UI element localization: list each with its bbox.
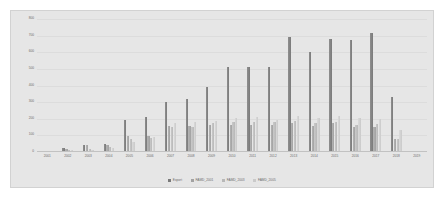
x-axis-tick-label: 2009	[201, 155, 222, 165]
y-axis-tick-label: 400	[29, 84, 34, 87]
x-axis-tick-label: 2008	[181, 155, 202, 165]
bar-groups	[37, 19, 427, 152]
y-axis-tick-label: 200	[29, 117, 34, 120]
x-axis-labels: 2001200220032004200520062007200820092010…	[37, 155, 427, 165]
bar	[317, 118, 319, 152]
y-axis-tick-label: 800	[29, 17, 34, 20]
x-axis-tick-label: 2010	[222, 155, 243, 165]
bar-group	[345, 19, 366, 152]
x-axis-baseline	[37, 151, 427, 152]
bar	[276, 120, 278, 152]
legend-swatch-icon	[168, 179, 171, 182]
x-axis-tick-label: 2015	[324, 155, 345, 165]
bar	[399, 130, 401, 152]
bar-group	[58, 19, 79, 152]
x-axis-tick-label: 2007	[160, 155, 181, 165]
x-axis-tick-label: 2005	[119, 155, 140, 165]
legend-swatch-icon	[191, 179, 194, 182]
bar-group	[78, 19, 99, 152]
bar-group	[366, 19, 387, 152]
x-axis-tick-label: 2013	[283, 155, 304, 165]
plot-area: 0100200300400500600700800	[37, 19, 427, 152]
legend-label: Export	[173, 179, 182, 182]
y-axis-tick-label: 700	[29, 34, 34, 37]
x-axis-tick-label: 2016	[345, 155, 366, 165]
legend-label: FAMD_2001	[196, 179, 214, 182]
y-axis-tick-label: 300	[29, 101, 34, 104]
y-axis-tick-label: 500	[29, 67, 34, 70]
bar-group	[140, 19, 161, 152]
bar	[194, 122, 196, 152]
y-axis-tick-label: 0	[32, 150, 34, 153]
legend-item[interactable]: FAMD_2003	[222, 179, 244, 182]
bar	[338, 116, 340, 152]
legend-label: FAMD_2005	[258, 179, 276, 182]
bar-group	[263, 19, 284, 152]
x-axis-tick-label: 2012	[263, 155, 284, 165]
bar	[235, 118, 237, 152]
legend-item[interactable]: FAMD_2001	[191, 179, 213, 182]
x-axis-tick-label: 2006	[140, 155, 161, 165]
bar-group	[37, 19, 58, 152]
bar-group	[283, 19, 304, 152]
chart-container: 0100200300400500600700800 20012002200320…	[10, 10, 434, 188]
bar-group	[119, 19, 140, 152]
legend-swatch-icon	[222, 179, 225, 182]
bar-group	[407, 19, 428, 152]
chart-legend: ExportFAMD_2001FAMD_2003FAMD_2005	[11, 179, 433, 182]
bar-group	[160, 19, 181, 152]
bar-group	[242, 19, 263, 152]
bar	[256, 117, 258, 152]
y-axis-tick-label: 600	[29, 51, 34, 54]
legend-item[interactable]: FAMD_2005	[253, 179, 275, 182]
bar-group	[304, 19, 325, 152]
bar-group	[181, 19, 202, 152]
bar-group	[201, 19, 222, 152]
x-axis-tick-label: 2018	[386, 155, 407, 165]
legend-swatch-icon	[253, 179, 256, 182]
x-axis-tick-label: 2004	[99, 155, 120, 165]
bar	[358, 118, 360, 152]
bar	[297, 116, 299, 152]
legend-label: FAMD_2003	[227, 179, 245, 182]
x-axis-tick-label: 2002	[58, 155, 79, 165]
x-axis-tick-label: 2011	[242, 155, 263, 165]
legend-item[interactable]: Export	[168, 179, 182, 182]
x-axis-tick-label: 2001	[37, 155, 58, 165]
bar	[153, 137, 155, 152]
bar	[174, 123, 176, 152]
x-axis-tick-label: 2017	[366, 155, 387, 165]
x-axis-tick-label: 2014	[304, 155, 325, 165]
bar	[379, 119, 381, 152]
bar-group	[386, 19, 407, 152]
bar-group	[99, 19, 120, 152]
y-axis-tick-label: 100	[29, 134, 34, 137]
bar-group	[222, 19, 243, 152]
bar-group	[324, 19, 345, 152]
bar	[215, 121, 217, 152]
x-axis-tick-label: 2019	[407, 155, 428, 165]
x-axis-tick-label: 2003	[78, 155, 99, 165]
